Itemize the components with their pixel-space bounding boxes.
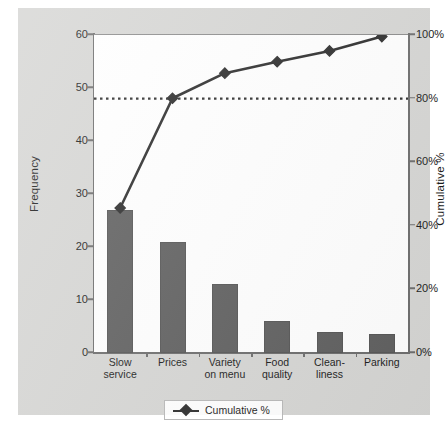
y-axis-left-tick-label: 40 [46, 135, 88, 146]
legend-label: Cumulative % [205, 404, 270, 416]
category-label-line: Parking [356, 357, 408, 369]
category-label-line: service [94, 369, 146, 381]
cumulative-line [120, 37, 382, 208]
y-axis-left-ticks: 0102030405060 [40, 8, 88, 415]
y-axis-right-tick-mark [409, 224, 415, 226]
y-axis-left-tick-label: 60 [46, 29, 88, 40]
x-axis-category-label: Foodquality [251, 357, 303, 380]
x-axis-tick-mark [146, 352, 148, 357]
y-axis-right-tick-mark [409, 288, 415, 290]
y-axis-right-tick-mark [409, 97, 415, 99]
category-label-line: Variety [199, 357, 251, 369]
cumulative-markers [115, 35, 387, 213]
category-label-line: on menu [199, 369, 251, 381]
cumulative-line-overlay [94, 35, 408, 353]
y-axis-left-tick-label: 20 [46, 241, 88, 252]
category-label-line: Prices [146, 357, 198, 369]
y-axis-left-tick-label: 0 [46, 347, 88, 358]
x-axis-category-label: Parking [356, 357, 408, 369]
y-axis-right-tick-label: 60% [416, 156, 448, 167]
y-axis-right-tick-label: 0% [416, 347, 448, 358]
y-axis-right-tick-mark [409, 33, 415, 35]
x-axis-category-label: Slowservice [94, 357, 146, 380]
x-axis-tick-mark [199, 352, 201, 357]
y-axis-left-tick-label: 10 [46, 294, 88, 305]
legend-line-swatch [173, 405, 199, 415]
x-axis-category-label: Clean-liness [303, 357, 355, 380]
plot-area [94, 34, 408, 352]
y-axis-left-tick-mark [87, 245, 93, 247]
y-axis-left-tick-mark [87, 298, 93, 300]
y-axis-right-tick-label: 20% [416, 283, 448, 294]
y-axis-right-line [408, 33, 410, 353]
category-label-line: Slow [94, 357, 146, 369]
pareto-chart-figure: Frequency Cumulative % 0102030405060 0%2… [0, 0, 448, 433]
y-axis-right-tick-label: 40% [416, 219, 448, 230]
diamond-marker-icon [180, 404, 193, 417]
y-axis-left-tick-mark [87, 351, 93, 353]
chart-card: Frequency Cumulative % 0102030405060 0%2… [18, 8, 430, 415]
x-axis-tick-mark [303, 352, 305, 357]
y-axis-right-tick-label: 80% [416, 92, 448, 103]
y-axis-left-tick-label: 50 [46, 82, 88, 93]
y-axis-left-tick-mark [87, 139, 93, 141]
x-axis-category-labels: SlowservicePricesVarietyon menuFoodquali… [94, 357, 408, 391]
y-axis-left-tick-mark [87, 86, 93, 88]
y-axis-right-tick-mark [409, 160, 415, 162]
y-axis-right-tick-label: 100% [416, 29, 448, 40]
y-axis-left-tick-label: 30 [46, 188, 88, 199]
x-axis-tick-mark [251, 352, 253, 357]
y-axis-title-left: Frequency [28, 129, 40, 239]
category-label-line: Clean- [303, 357, 355, 369]
y-axis-right-tick-mark [409, 351, 415, 353]
y-axis-left-tick-mark [87, 192, 93, 194]
y-axis-left-tick-mark [87, 33, 93, 35]
category-label-line: liness [303, 369, 355, 381]
x-axis-category-label: Varietyon menu [199, 357, 251, 380]
category-label-line: quality [251, 369, 303, 381]
x-axis-category-label: Prices [146, 357, 198, 369]
category-label-line: Food [251, 357, 303, 369]
x-axis-tick-mark [356, 352, 358, 357]
y-axis-right-ticks: 0%20%40%60%80%100% [416, 8, 448, 415]
chart-legend: Cumulative % [164, 400, 283, 420]
